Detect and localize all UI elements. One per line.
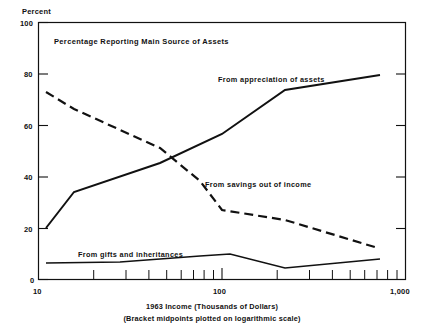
x-tick-10: 10 xyxy=(33,287,42,296)
x-axis-ticks xyxy=(94,268,397,280)
series-label-appreciation-of-assets: From appreciation of assets xyxy=(218,75,325,84)
x-tick-100: 100 xyxy=(213,287,226,296)
plot-frame xyxy=(39,23,406,280)
y-axis-title: Percent xyxy=(22,7,51,16)
chart-title: Percentage Reporting Main Source of Asse… xyxy=(54,37,229,46)
x-axis-subtitle: (Bracket midpoints plotted on logarithmi… xyxy=(123,314,300,323)
y-axis-right-ticks xyxy=(396,74,406,229)
y-tick-80: 80 xyxy=(24,70,33,79)
y-tick-20: 20 xyxy=(24,225,33,234)
y-tick-40: 40 xyxy=(24,173,33,182)
series-line-appreciation-of-assets xyxy=(46,75,380,228)
x-tick-1000: 1,000 xyxy=(390,287,410,296)
series-label-savings-out-of-income: From savings out of income xyxy=(205,180,311,189)
y-tick-0: 0 xyxy=(30,276,34,285)
chart-figure: Percent 100 80 60 40 20 0 xyxy=(0,0,425,328)
y-axis-ticks xyxy=(39,23,49,280)
series-label-gifts-and-inheritances: From gifts and inheritances xyxy=(78,250,183,259)
x-axis-title: 1963 Income (Thousands of Dollars) xyxy=(146,302,278,311)
series-line-savings-out-of-income xyxy=(46,92,378,248)
x-axis-tick-labels: 10 100 1,000 xyxy=(33,287,410,296)
y-tick-100: 100 xyxy=(20,19,33,28)
y-axis-tick-labels: 100 80 60 40 20 0 xyxy=(20,19,34,286)
y-tick-60: 60 xyxy=(24,122,33,131)
